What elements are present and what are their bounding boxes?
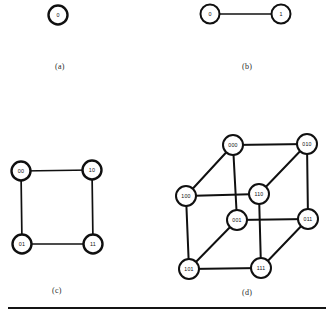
graph-node-label: 0 — [208, 11, 211, 17]
graph-node-label: 000 — [228, 142, 237, 148]
graph-node: 111 — [251, 258, 271, 278]
graph-node: 0 — [49, 6, 68, 25]
graph-node-label: 110 — [255, 191, 264, 197]
graph-node-label: 10 — [89, 167, 95, 173]
figure-root: 00100100111000010100110001011101111 (a) … — [0, 0, 330, 318]
graph-edge — [259, 194, 261, 268]
graph-node: 100 — [176, 186, 196, 206]
graph-node: 101 — [179, 259, 199, 279]
horizontal-rule-divider — [8, 307, 326, 309]
graph-node-label: 0 — [56, 12, 59, 18]
graph-node: 10 — [83, 161, 102, 180]
graph-edge — [307, 144, 308, 219]
graph-node-label: 101 — [184, 266, 193, 272]
graph-node-label: 011 — [304, 216, 313, 222]
graph-edge — [21, 171, 22, 244]
graph-nodes-layer: 00100100111000010100110001011101111 — [12, 5, 319, 280]
graph-node-label: 00 — [18, 168, 24, 174]
graph-node: 01 — [13, 235, 32, 254]
graph-node-label: 11 — [90, 241, 96, 247]
graph-node: 010 — [297, 134, 317, 154]
caption-panel-c: (c) — [52, 286, 62, 295]
caption-panel-d: (d) — [242, 288, 252, 297]
graph-node: 001 — [227, 210, 247, 230]
graph-edges-layer — [21, 14, 308, 269]
graph-node-label: 001 — [232, 217, 241, 223]
graph-node-label: 111 — [257, 265, 265, 271]
graph-node-label: 010 — [302, 141, 311, 147]
graph-node: 011 — [298, 209, 318, 229]
hypercube-figure-canvas: 00100100111000010100110001011101111 — [0, 0, 330, 318]
graph-node: 11 — [84, 235, 103, 254]
graph-node: 1 — [272, 5, 291, 24]
graph-edge — [92, 170, 93, 244]
graph-node: 110 — [249, 184, 269, 204]
graph-edge — [233, 144, 307, 145]
graph-node-label: 01 — [19, 241, 25, 247]
graph-node: 0 — [201, 5, 220, 24]
graph-edge — [233, 145, 237, 220]
graph-node: 00 — [12, 162, 31, 181]
graph-node: 000 — [223, 135, 243, 155]
caption-panel-a: (a) — [55, 62, 65, 71]
graph-node-label: 100 — [181, 193, 190, 199]
graph-node-label: 1 — [279, 11, 282, 17]
caption-panel-b: (b) — [242, 62, 252, 71]
